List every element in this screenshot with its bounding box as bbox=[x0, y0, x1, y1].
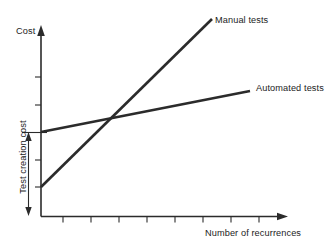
dimension-arrow-down-head-icon bbox=[25, 207, 31, 216]
series-line-automated-tests bbox=[41, 91, 250, 132]
y-axis-label: Cost bbox=[16, 26, 35, 36]
chart-plot-area bbox=[0, 0, 331, 248]
test-creation-cost-label: Test creation cost bbox=[18, 112, 28, 202]
x-axis-label: Number of recurrences bbox=[205, 228, 301, 238]
chart-figure: Cost Manual tests Automated tests Number… bbox=[0, 0, 331, 248]
x-axis-arrow-icon bbox=[277, 213, 288, 221]
x-axis-ticks bbox=[63, 217, 259, 223]
series-label-automated-tests: Automated tests bbox=[256, 83, 324, 93]
y-axis bbox=[37, 25, 45, 217]
y-axis-arrow-icon bbox=[37, 25, 45, 36]
x-axis bbox=[41, 213, 288, 221]
series-label-manual-tests: Manual tests bbox=[215, 15, 268, 25]
